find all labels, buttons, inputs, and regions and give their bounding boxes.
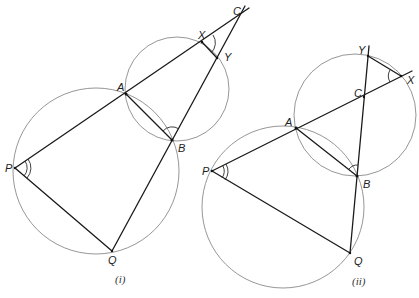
panel-ii-point-C [363,96,365,98]
panel-ii-angle-P-arc2 [225,164,228,180]
panel-ii-label-X: X [406,74,415,86]
panel-i-caption: (i) [115,273,126,286]
panel-i-label-A: A [116,81,124,93]
panel-ii-label-A: A [284,116,292,128]
panel-i-point-Q [111,250,113,252]
panel-i: P Q A B X Y C (i) [5,5,249,286]
panel-i-point-X [201,41,203,43]
geometry-figure: P Q A B X Y C (i) P [0,0,419,298]
panel-ii-angle-P-arc1 [222,166,224,178]
panel-ii-point-X [400,75,402,77]
panel-ii-point-A [295,127,298,130]
panel-i-line-PC [15,8,249,168]
panel-ii-line-QY [350,46,369,253]
panel-i-angle-B-arc [163,127,179,131]
panel-ii-label-B: B [363,178,370,190]
panel-ii-small-circle [294,54,416,176]
panel-i-label-B: B [178,142,185,154]
panel-i-label-C: C [233,5,241,17]
panel-i-segment-PQ [15,168,112,251]
panel-ii: P Q A B C X Y (ii) [202,44,416,288]
panel-ii-point-Q [349,252,351,254]
panel-ii-caption: (ii) [352,275,366,288]
panel-i-label-X: X [197,29,206,41]
panel-ii-segment-PQ [212,171,350,253]
panel-ii-large-circle [202,126,364,288]
panel-i-point-P [14,167,16,169]
panel-i-small-circle [125,37,229,141]
panel-ii-label-Q: Q [354,255,363,267]
panel-i-point-A [125,93,128,96]
panel-i-point-Y [216,57,218,59]
panel-i-label-Q: Q [108,254,117,266]
panel-ii-segment-YX [368,56,401,76]
panel-i-label-P: P [5,162,13,174]
panel-ii-label-C: C [354,87,362,99]
panel-ii-label-P: P [202,165,210,177]
panel-ii-line-PX [212,71,412,171]
panel-ii-point-P [211,170,213,172]
panel-i-point-B [171,139,174,142]
panel-i-label-Y: Y [224,51,232,63]
panel-ii-point-B [356,175,359,178]
panel-ii-angle-X-arc [388,70,390,82]
panel-ii-point-Y [367,55,369,57]
panel-ii-label-Y: Y [358,44,366,56]
panel-i-angle-P-arc1 [24,161,27,176]
panel-i-segment-XY [202,42,217,58]
